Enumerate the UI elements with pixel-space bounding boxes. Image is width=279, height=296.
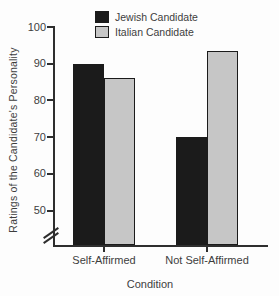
category-label-self-affirmed: Self-Affirmed xyxy=(72,254,135,266)
legend-label: Jewish Candidate xyxy=(115,11,198,23)
legend-swatch-icon xyxy=(95,26,109,38)
bar-jewish-candidate-not-self-affirmed xyxy=(176,137,207,245)
legend: Jewish CandidateItalian Candidate xyxy=(95,11,198,41)
legend-item-jewish-candidate: Jewish Candidate xyxy=(95,11,198,23)
y-tick-label: 80 xyxy=(16,94,46,107)
category-label-not-self-affirmed: Not Self-Affirmed xyxy=(165,254,249,266)
x-tick xyxy=(206,247,208,252)
y-tick xyxy=(47,136,54,138)
legend-label: Italian Candidate xyxy=(115,26,194,38)
y-tick-label: 100 xyxy=(16,21,46,34)
bar-italian-candidate-self-affirmed xyxy=(104,78,135,245)
y-tick-label: 50 xyxy=(16,204,46,217)
y-tick-label: 60 xyxy=(16,167,46,180)
bar-italian-candidate-not-self-affirmed xyxy=(207,51,238,245)
legend-swatch-icon xyxy=(95,11,109,23)
x-axis-title: Condition xyxy=(127,278,173,290)
y-tick-label: 90 xyxy=(16,57,46,70)
x-tick xyxy=(103,247,105,252)
bar-jewish-candidate-self-affirmed xyxy=(73,64,104,245)
y-tick-label: 70 xyxy=(16,131,46,144)
y-tick xyxy=(47,99,54,101)
y-tick xyxy=(47,173,54,175)
y-tick xyxy=(47,63,54,65)
bar-chart-figure: Ratings of the Candidate's Personality J… xyxy=(0,0,279,296)
legend-item-italian-candidate: Italian Candidate xyxy=(95,26,198,38)
x-axis-line xyxy=(53,245,268,247)
y-tick xyxy=(47,26,54,28)
y-tick xyxy=(47,210,54,212)
